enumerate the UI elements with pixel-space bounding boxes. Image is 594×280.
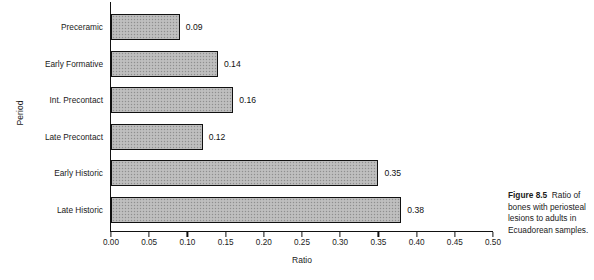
x-tick-label: 0.00 xyxy=(103,238,119,247)
x-tick xyxy=(301,232,302,237)
bar xyxy=(111,51,218,77)
bar-value-label: 0.14 xyxy=(224,59,241,69)
x-tick-label: 0.45 xyxy=(447,238,463,247)
x-tick xyxy=(263,232,264,237)
category-label: Late Precontact xyxy=(45,132,103,142)
x-tick-label: 0.20 xyxy=(256,238,272,247)
x-tick xyxy=(454,232,455,237)
bar xyxy=(111,124,203,150)
x-tick-label: 0.35 xyxy=(370,238,386,247)
bar-value-label: 0.12 xyxy=(209,132,226,142)
x-tick xyxy=(110,232,111,237)
x-tick-label: 0.25 xyxy=(294,238,310,247)
figure-8-5: Period PreceramicEarly FormativeInt. Pre… xyxy=(0,0,594,280)
bar-chart: Period PreceramicEarly FormativeInt. Pre… xyxy=(0,0,500,280)
category-label: Early Historic xyxy=(54,168,103,178)
category-label: Int. Precontact xyxy=(50,95,104,105)
x-tick xyxy=(149,232,150,237)
category-label: Preceramic xyxy=(61,22,103,32)
x-tick xyxy=(187,232,188,237)
bar xyxy=(111,197,401,223)
bar-value-label: 0.38 xyxy=(407,205,424,215)
category-label: Early Formative xyxy=(45,59,103,69)
figure-caption: Figure 8.5 Ratio of bones with periostea… xyxy=(508,190,594,236)
x-axis-title: Ratio xyxy=(292,255,312,265)
x-tick xyxy=(340,232,341,237)
x-tick-label: 0.15 xyxy=(218,238,234,247)
x-tick-label: 0.10 xyxy=(179,238,195,247)
x-tick-label: 0.30 xyxy=(332,238,348,247)
bar-value-label: 0.09 xyxy=(186,22,203,32)
bar xyxy=(111,160,378,186)
x-tick xyxy=(378,232,379,237)
bar xyxy=(111,14,180,40)
x-tick-label: 0.05 xyxy=(141,238,157,247)
bar-value-label: 0.35 xyxy=(384,168,401,178)
bar-value-label: 0.16 xyxy=(239,95,256,105)
x-tick-label: 0.40 xyxy=(409,238,425,247)
x-tick xyxy=(225,232,226,237)
x-tick-label: 0.50 xyxy=(485,238,501,247)
category-label: Late Historic xyxy=(57,205,103,215)
category-label-list: PreceramicEarly FormativeInt. Precontact… xyxy=(8,0,107,232)
bar xyxy=(111,87,233,113)
plot-area: 0.000.050.100.150.200.250.300.350.400.45… xyxy=(111,0,493,232)
figure-caption-number: Figure 8.5 xyxy=(508,190,547,200)
x-tick xyxy=(416,232,417,237)
x-tick xyxy=(492,232,493,237)
